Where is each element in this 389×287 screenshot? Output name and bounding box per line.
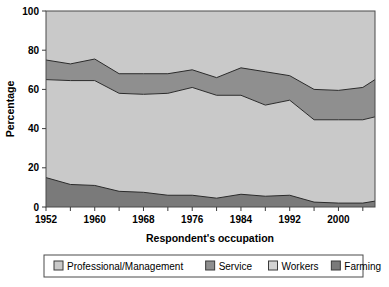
legend-swatch-1 — [206, 261, 215, 270]
x-tick-label: 1960 — [84, 214, 107, 225]
stacked-area-chart: 020406080100 195219601968197619841992200… — [0, 0, 389, 287]
y-tick-label: 100 — [22, 6, 39, 17]
x-tick-label: 1984 — [230, 214, 253, 225]
x-tick-label: 1976 — [181, 214, 204, 225]
x-tick-label: 2000 — [327, 214, 350, 225]
legend-label-3: Farming — [344, 261, 381, 272]
x-axis-title: Respondent's occupation — [146, 232, 274, 244]
x-tick-label: 1952 — [35, 214, 58, 225]
y-tick-label: 80 — [28, 45, 40, 56]
chart-legend: Professional/ManagementServiceWorkersFar… — [44, 255, 381, 277]
legend-swatch-3 — [331, 261, 340, 270]
y-tick-label: 60 — [28, 84, 40, 95]
chart-container: 020406080100 195219601968197619841992200… — [0, 0, 389, 287]
y-tick-label: 40 — [28, 123, 40, 134]
y-tick-label: 20 — [28, 162, 40, 173]
y-axis: 020406080100 — [22, 6, 46, 213]
legend-swatch-0 — [54, 261, 63, 270]
x-axis: 1952196019681976198419922000 — [35, 207, 363, 225]
legend-swatch-2 — [269, 261, 278, 270]
y-tick-label: 0 — [33, 202, 39, 213]
x-tick-label: 1968 — [132, 214, 155, 225]
legend-label-1: Service — [219, 261, 253, 272]
chart-bands — [46, 11, 375, 207]
y-axis-title: Percentage — [4, 81, 16, 138]
legend-label-0: Professional/Management — [67, 261, 183, 272]
x-tick-label: 1992 — [279, 214, 302, 225]
legend-label-2: Workers — [282, 261, 319, 272]
